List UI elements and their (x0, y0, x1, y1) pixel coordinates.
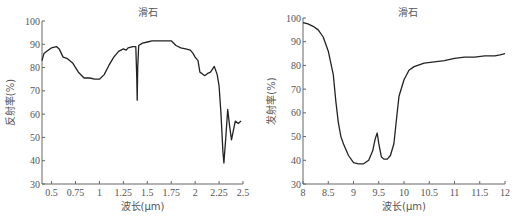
x-tick-label: 1 (97, 187, 102, 198)
y-tick-label: 80 (291, 60, 301, 71)
y-tick-label: 60 (291, 107, 301, 118)
y-axis-label: 发射率(%) (265, 77, 277, 124)
x-axis-label: 波长(μm) (382, 200, 426, 212)
x-tick-label: 9 (351, 187, 356, 198)
y-tick-label: 30 (291, 179, 301, 190)
chart-title: 滑石 (138, 7, 158, 18)
x-tick-label: 2 (193, 187, 198, 198)
y-tick-label: 90 (30, 39, 40, 50)
y-tick-label: 100 (286, 13, 301, 24)
y-tick-label: 40 (291, 155, 301, 166)
charts-canvas: 304050607080901000.50.7511.251.51.7522.2… (0, 0, 528, 224)
x-tick-label: 1.5 (141, 187, 154, 198)
x-tick-label: 10.5 (421, 187, 439, 198)
y-tick-label: 70 (30, 85, 40, 96)
data-line (42, 41, 241, 163)
x-axis-label: 波长(μm) (121, 200, 165, 212)
y-tick-label: 30 (30, 179, 40, 190)
x-tick-label: 11.5 (471, 187, 488, 198)
y-axis-label: 反射率(%) (4, 79, 16, 126)
chart-title: 滑石 (398, 7, 418, 18)
emissivity-chart: 3040506070809010088.599.51010.51111.512滑… (265, 7, 510, 212)
y-tick-label: 60 (30, 109, 40, 120)
x-tick-label: 2.5 (237, 187, 250, 198)
x-tick-label: 11 (450, 187, 460, 198)
y-tick-label: 50 (30, 132, 40, 143)
x-tick-label: 1.25 (115, 187, 133, 198)
x-tick-label: 0.75 (67, 187, 85, 198)
y-tick-label: 40 (30, 155, 40, 166)
x-tick-label: 8.5 (322, 187, 335, 198)
data-line (303, 23, 505, 164)
x-tick-label: 1.75 (162, 187, 180, 198)
x-tick-label: 10 (399, 187, 409, 198)
y-tick-label: 100 (25, 16, 40, 27)
y-tick-label: 80 (30, 62, 40, 73)
x-tick-label: 2.25 (210, 187, 228, 198)
reflectance-chart: 304050607080901000.50.7511.251.51.7522.2… (4, 7, 249, 212)
x-tick-label: 9.5 (373, 187, 386, 198)
x-tick-label: 0.5 (45, 187, 58, 198)
y-tick-label: 50 (291, 131, 301, 142)
y-tick-label: 70 (291, 84, 301, 95)
y-tick-label: 90 (291, 36, 301, 47)
x-tick-label: 8 (301, 187, 306, 198)
x-tick-label: 12 (500, 187, 510, 198)
